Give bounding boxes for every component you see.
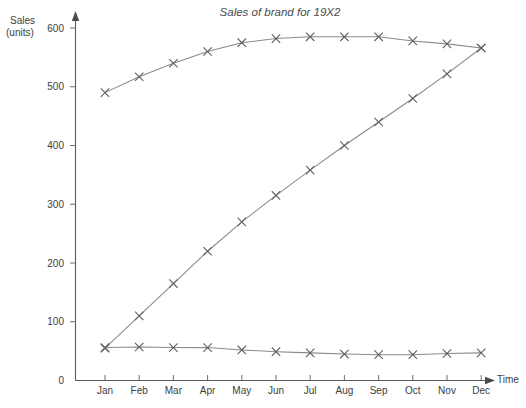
data-point-marker xyxy=(169,59,177,67)
chart-container: Sales of brand for 19X2 Sales (units) Ti… xyxy=(0,0,526,408)
y-axis: 0100200300400500600 xyxy=(47,11,79,386)
x-tick-label-feb: Feb xyxy=(131,385,149,396)
x-axis-label: Time xyxy=(497,374,519,385)
series-rising-line xyxy=(101,44,486,353)
y-axis-arrow xyxy=(72,11,79,21)
y-tick-label: 400 xyxy=(47,140,64,151)
x-tick-label-may: May xyxy=(232,385,251,396)
data-point-marker xyxy=(203,247,211,255)
x-tick-group: JanFebMarAprMayJunJulAugSepOctNovDec xyxy=(97,375,490,396)
x-tick-label-aug: Aug xyxy=(336,385,354,396)
series-line xyxy=(105,37,481,93)
y-axis-label-line2: (units) xyxy=(6,27,34,38)
sales-line-chart: Sales of brand for 19X2 Sales (units) Ti… xyxy=(0,0,526,408)
data-point-marker xyxy=(443,70,451,78)
x-axis-arrow xyxy=(485,377,495,384)
data-point-marker xyxy=(340,141,348,149)
x-tick-label-nov: Nov xyxy=(438,385,456,396)
x-tick-label-sep: Sep xyxy=(370,385,388,396)
x-axis: JanFebMarAprMayJunJulAugSepOctNovDec xyxy=(76,375,496,396)
x-tick-label-jan: Jan xyxy=(97,385,113,396)
data-point-marker xyxy=(374,118,382,126)
x-tick-label-mar: Mar xyxy=(165,385,183,396)
data-point-marker xyxy=(238,218,246,226)
data-point-marker xyxy=(169,279,177,287)
data-point-marker xyxy=(101,88,109,96)
y-tick-label: 500 xyxy=(47,81,64,92)
x-tick-label-jul: Jul xyxy=(304,385,317,396)
series-line xyxy=(105,347,481,355)
x-tick-label-apr: Apr xyxy=(200,385,216,396)
data-point-marker xyxy=(306,166,314,174)
chart-title: Sales of brand for 19X2 xyxy=(220,6,341,18)
y-tick-label: 100 xyxy=(47,316,64,327)
data-series-group xyxy=(101,33,486,359)
y-tick-label: 0 xyxy=(58,375,64,386)
series-line xyxy=(105,48,481,348)
data-point-marker xyxy=(272,191,280,199)
y-tick-label: 600 xyxy=(47,23,64,34)
data-point-marker xyxy=(135,312,143,320)
data-point-marker xyxy=(409,94,417,102)
y-axis-label-line1: Sales xyxy=(10,15,35,26)
x-tick-label-dec: Dec xyxy=(472,385,490,396)
x-tick-label-oct: Oct xyxy=(405,385,421,396)
y-tick-group: 0100200300400500600 xyxy=(47,23,75,387)
y-tick-label: 200 xyxy=(47,258,64,269)
data-point-marker xyxy=(135,73,143,81)
series-lower-flat-line xyxy=(101,343,486,359)
y-tick-label: 300 xyxy=(47,199,64,210)
data-point-marker xyxy=(203,47,211,55)
x-tick-label-jun: Jun xyxy=(268,385,284,396)
